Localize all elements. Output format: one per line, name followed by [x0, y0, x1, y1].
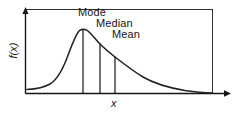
x-axis-label: x — [111, 98, 117, 109]
y-axis-arrowhead — [22, 7, 28, 14]
distribution-figure: Mode Median Mean f(x) x — [0, 0, 236, 122]
y-axis-label: f(x) — [8, 34, 19, 68]
mean-label: Mean — [112, 29, 140, 40]
x-axis-arrowhead — [224, 90, 231, 96]
